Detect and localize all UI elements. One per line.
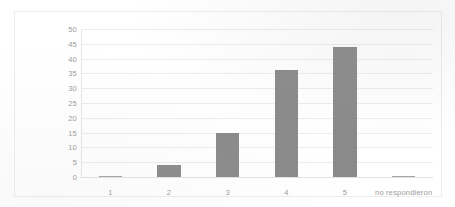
x-tick-label: 1 [108,188,112,197]
y-tick-label: 0 [73,173,77,182]
x-tick-label: 3 [225,188,229,197]
x-tick-label: 4 [284,188,288,197]
bar-slot [140,29,199,177]
y-tick-label: 10 [68,143,77,152]
chart-page: 50 45 40 35 30 25 20 15 10 5 0 [0,0,455,207]
x-tick-slot: no respondieron [374,181,433,199]
bar[interactable] [275,70,298,177]
x-tick-label: no respondieron [375,188,432,197]
y-tick-label: 25 [68,99,77,108]
y-axis-tick-labels: 50 45 40 35 30 25 20 15 10 5 0 [48,29,81,177]
bar-slot [198,29,257,177]
bar[interactable] [216,133,239,177]
y-tick-label: 5 [73,158,77,167]
y-tick-label: 35 [68,69,77,78]
y-tick-label: 40 [68,54,77,63]
plot-area: 50 45 40 35 30 25 20 15 10 5 0 [48,29,433,177]
x-tick-label: 5 [343,188,347,197]
x-tick-slot: 3 [198,181,257,199]
x-axis-tick-labels: 1 2 3 4 5 no respondieron [81,181,433,199]
y-tick-label: 45 [68,39,77,48]
x-tick-slot: 2 [140,181,199,199]
x-tick-label: 2 [167,188,171,197]
y-tick-label: 50 [68,25,77,34]
bar[interactable] [333,47,356,177]
bar-slot [81,29,140,177]
y-tick-label: 30 [68,84,77,93]
bar-slot [257,29,316,177]
bar[interactable] [392,176,415,178]
bar-slot [316,29,375,177]
bar[interactable] [99,176,122,178]
x-tick-slot: 1 [81,181,140,199]
bar-series [81,29,433,177]
x-tick-slot: 5 [316,181,375,199]
bar[interactable] [157,165,180,177]
bar-slot [374,29,433,177]
y-tick-label: 15 [68,128,77,137]
axis-baseline [81,177,433,178]
y-tick-label: 20 [68,113,77,122]
chart-frame: 50 45 40 35 30 25 20 15 10 5 0 [14,11,442,197]
x-tick-slot: 4 [257,181,316,199]
